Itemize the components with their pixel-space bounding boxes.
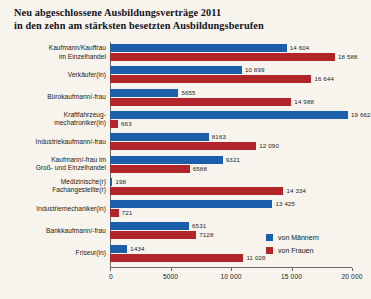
x-axis-tick-label: 10 000 xyxy=(221,272,242,281)
bar-value-label: 18 588 xyxy=(338,52,358,61)
bar-value-label: 11 028 xyxy=(246,253,265,262)
bar-male[interactable] xyxy=(110,111,348,119)
bar-male[interactable] xyxy=(110,245,127,253)
chart-title: Neu abgeschlossene Ausbildungsverträge 2… xyxy=(14,6,344,32)
bar-row: 13 425 xyxy=(110,200,352,208)
bar-row: 9321 xyxy=(110,156,352,164)
chart-title-line-1: Neu abgeschlossene Ausbildungsverträge 2… xyxy=(14,6,344,19)
bar-row: 6531 xyxy=(110,222,352,230)
bar-row: 721 xyxy=(110,209,352,217)
bar-female[interactable] xyxy=(110,75,311,83)
bar-row: 10 899 xyxy=(110,66,352,74)
bar-value-label: 13 425 xyxy=(275,199,295,208)
bar-value-label: 14 988 xyxy=(294,97,314,106)
bar-female[interactable] xyxy=(110,142,256,150)
bar-value-label: 7128 xyxy=(199,230,213,239)
chart-title-line-2: in den zehn am stärksten besetzten Ausbi… xyxy=(14,19,344,32)
bar-row: 14 334 xyxy=(110,187,352,195)
bar-value-label: 663 xyxy=(121,119,132,128)
legend-item[interactable]: von Frauen xyxy=(266,245,358,256)
x-axis-tick-mark xyxy=(352,268,353,271)
x-axis-ticks: 0500010 00015 00020 000 xyxy=(110,268,352,284)
legend-swatch-female xyxy=(266,247,273,254)
bar-row: 5655 xyxy=(110,89,352,97)
bar-female[interactable] xyxy=(110,165,190,173)
bar-value-label: 6588 xyxy=(193,164,207,173)
chart-legend: von Männernvon Frauen xyxy=(266,232,358,258)
x-axis-tick-label: 20 000 xyxy=(342,272,363,281)
x-axis-tick-mark xyxy=(110,268,111,271)
bar-male[interactable] xyxy=(110,222,189,230)
x-axis-tick-label: 15 000 xyxy=(281,272,302,281)
x-axis-tick-mark xyxy=(231,268,232,271)
bar-female[interactable] xyxy=(110,53,335,61)
bar-female[interactable] xyxy=(110,187,283,195)
bar-group: 19 662663 xyxy=(110,111,352,128)
bar-female[interactable] xyxy=(110,209,119,217)
bar-value-label: 14 334 xyxy=(286,186,306,195)
bar-row: 12 090 xyxy=(110,142,352,150)
bar-value-label: 9321 xyxy=(226,155,240,164)
bar-male[interactable] xyxy=(110,178,112,186)
bar-value-label: 8163 xyxy=(212,132,226,141)
bar-group: 10 89916 644 xyxy=(110,66,352,83)
legend-label: von Frauen xyxy=(278,246,313,255)
bar-row: 18 588 xyxy=(110,53,352,61)
bar-value-label: 12 090 xyxy=(259,141,279,150)
x-axis-tick-mark xyxy=(292,268,293,271)
x-axis-tick-label: 0 xyxy=(109,272,113,281)
bar-group: 565514 988 xyxy=(110,89,352,106)
bar-value-label: 198 xyxy=(115,177,126,186)
bar-value-label: 16 644 xyxy=(314,74,334,83)
bar-value-label: 10 899 xyxy=(245,65,265,74)
bar-group: 14 60418 588 xyxy=(110,44,352,61)
bar-row: 16 644 xyxy=(110,75,352,83)
legend-item[interactable]: von Männern xyxy=(266,232,358,243)
bar-row: 14 604 xyxy=(110,44,352,52)
bar-value-label: 721 xyxy=(122,208,133,217)
bar-value-label: 14 604 xyxy=(290,43,310,52)
bar-male[interactable] xyxy=(110,89,178,97)
bar-female[interactable] xyxy=(110,120,118,128)
bar-value-label: 6531 xyxy=(192,221,206,230)
bar-value-label: 1434 xyxy=(130,244,144,253)
bar-row: 8163 xyxy=(110,133,352,141)
bar-female[interactable] xyxy=(110,254,243,262)
legend-label: von Männern xyxy=(278,233,319,242)
bar-row: 19 662 xyxy=(110,111,352,119)
bar-male[interactable] xyxy=(110,200,272,208)
bar-row: 198 xyxy=(110,178,352,186)
bar-male[interactable] xyxy=(110,156,223,164)
x-axis-tick-mark xyxy=(171,268,172,271)
bar-value-label: 5655 xyxy=(181,88,195,97)
bar-male[interactable] xyxy=(110,133,209,141)
bar-group: 13 425721 xyxy=(110,200,352,217)
bar-row: 663 xyxy=(110,120,352,128)
bar-row: 14 988 xyxy=(110,98,352,106)
legend-swatch-male xyxy=(266,234,273,241)
bar-group: 93216588 xyxy=(110,156,352,173)
bar-male[interactable] xyxy=(110,44,287,52)
bar-group: 19814 334 xyxy=(110,178,352,195)
bar-row: 6588 xyxy=(110,165,352,173)
bar-male[interactable] xyxy=(110,66,242,74)
x-axis-tick-label: 5000 xyxy=(163,272,178,281)
bar-female[interactable] xyxy=(110,231,196,239)
bar-group: 816312 090 xyxy=(110,133,352,150)
bar-value-label: 19 662 xyxy=(351,110,371,119)
bar-female[interactable] xyxy=(110,98,291,106)
